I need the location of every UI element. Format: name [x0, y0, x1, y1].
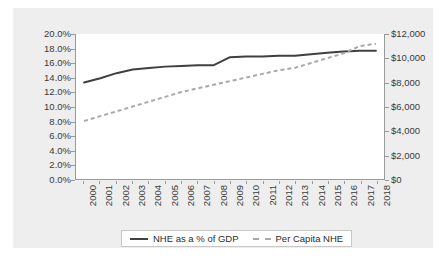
y-axis-right-tick: [385, 58, 389, 59]
x-axis-tick: [132, 181, 133, 184]
y-axis-left-tick-label: 8.0%: [23, 117, 71, 127]
x-axis-tick: [246, 181, 247, 184]
y-axis-right-tick-label: $12,000: [391, 29, 445, 39]
x-axis-tick-label: 2006: [185, 185, 196, 206]
y-axis-right-tick: [385, 131, 389, 132]
x-axis-tick: [165, 181, 166, 184]
y-axis-left-tick-label: 18.0%: [23, 44, 71, 54]
x-axis-tick: [197, 181, 198, 184]
x-axis-tick-label: 2005: [169, 185, 180, 206]
y-axis-right-tick: [385, 107, 389, 108]
x-axis-tick-label: 2003: [136, 185, 147, 206]
y-axis-left: 0.0%2.0%4.0%6.0%8.0%10.0%12.0%14.0%16.0%…: [21, 8, 71, 248]
chart-legend: NHE as a % of GDP Per Capita NHE: [121, 230, 352, 247]
y-axis-right-tick-label: $0: [391, 175, 445, 185]
x-axis-tick-label: 2014: [316, 185, 327, 206]
x-axis-tick-label: 2009: [234, 185, 245, 206]
y-axis-right: $0$2,000$4,000$6,000$8,000$10,000$12,000: [391, 8, 446, 248]
x-axis-tick-label: 2018: [381, 185, 392, 206]
x-axis-tick-label: 2007: [201, 185, 212, 206]
y-axis-right-tick-label: $2,000: [391, 151, 445, 161]
x-axis-tick: [377, 181, 378, 184]
x-axis-tick: [181, 181, 182, 184]
legend-label-nhe-percent-gdp: NHE as a % of GDP: [153, 233, 239, 244]
series-line-per-capita-nhe: [84, 44, 376, 121]
x-axis-tick: [328, 181, 329, 184]
y-axis-left-tick-label: 20.0%: [23, 29, 71, 39]
x-axis-tick: [279, 181, 280, 184]
y-axis-right-tick-label: $10,000: [391, 53, 445, 63]
chart-panel: 0.0%2.0%4.0%6.0%8.0%10.0%12.0%14.0%16.0%…: [13, 8, 433, 248]
x-axis-tick-label: 2008: [218, 185, 229, 206]
plot-area: [75, 34, 385, 180]
x-axis-tick-label: 2002: [120, 185, 131, 206]
legend-label-per-capita-nhe: Per Capita NHE: [276, 233, 344, 244]
x-axis-tick-label: 2011: [267, 185, 278, 205]
y-axis-left-tick-label: 0.0%: [23, 175, 71, 185]
x-axis-tick: [214, 181, 215, 184]
x-axis-tick-label: 2010: [250, 185, 261, 206]
dashed-line-icon: [253, 238, 271, 240]
series-canvas: [76, 34, 384, 179]
y-axis-right-tick: [385, 156, 389, 157]
x-axis-tick: [116, 181, 117, 184]
x-axis-tick-label: 2016: [348, 185, 359, 206]
x-axis-tick-label: 2012: [283, 185, 294, 206]
x-axis-tick-label: 2004: [152, 185, 163, 206]
x-axis-tick: [344, 181, 345, 184]
y-axis-left-tick-label: 16.0%: [23, 58, 71, 68]
x-axis-tick: [148, 181, 149, 184]
y-axis-left-tick-label: 2.0%: [23, 160, 71, 170]
x-axis-tick: [361, 181, 362, 184]
x-axis-tick-label: 2001: [103, 185, 114, 206]
y-axis-right-tick: [385, 83, 389, 84]
y-axis-right-tick-label: $4,000: [391, 126, 445, 136]
solid-line-icon: [130, 238, 148, 240]
y-axis-left-tick-label: 4.0%: [23, 146, 71, 156]
x-axis: 2000200120022003200420052006200720082009…: [75, 181, 386, 227]
y-axis-left-tick-label: 12.0%: [23, 87, 71, 97]
x-axis-tick-label: 2015: [332, 185, 343, 206]
x-axis-tick: [99, 181, 100, 184]
x-axis-tick-label: 2000: [87, 185, 98, 206]
x-axis-tick: [263, 181, 264, 184]
series-line-nhe-percent-gdp: [84, 51, 376, 83]
x-axis-tick-label: 2013: [299, 185, 310, 206]
x-axis-tick: [230, 181, 231, 184]
legend-item-nhe-percent-gdp: NHE as a % of GDP: [130, 233, 239, 244]
y-axis-right-tick-label: $8,000: [391, 78, 445, 88]
y-axis-left-tick-label: 14.0%: [23, 73, 71, 83]
x-axis-tick: [295, 181, 296, 184]
legend-item-per-capita-nhe: Per Capita NHE: [253, 233, 344, 244]
x-axis-tick: [312, 181, 313, 184]
x-axis-tick-label: 2017: [365, 185, 376, 206]
y-axis-left-tick-label: 6.0%: [23, 131, 71, 141]
y-axis-right-tick: [385, 34, 389, 35]
y-axis-left-tick-label: 10.0%: [23, 102, 71, 112]
x-axis-tick: [83, 181, 84, 184]
y-axis-right-tick-label: $6,000: [391, 102, 445, 112]
